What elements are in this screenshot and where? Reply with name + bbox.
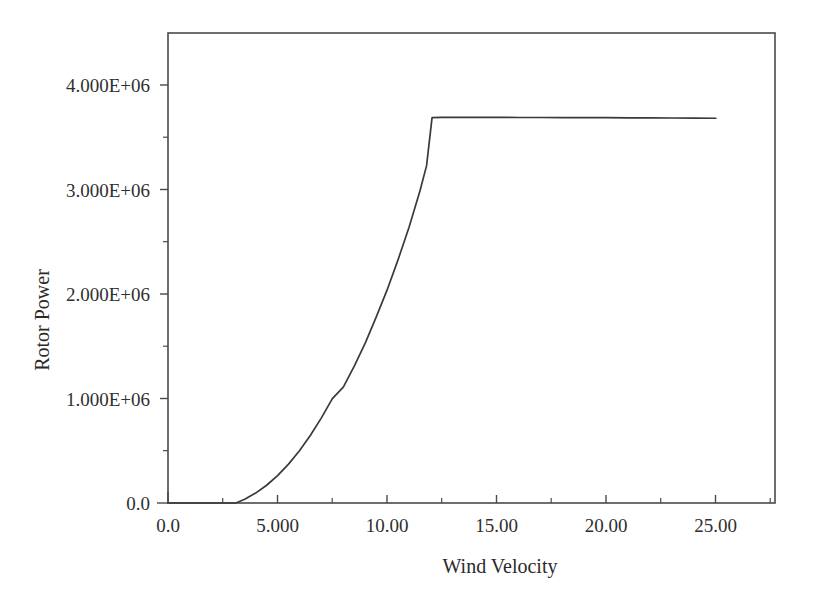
- chart-canvas: 0.0 5.000 10.00 15.00 20.00 25.00 0.0 1.…: [0, 0, 814, 597]
- y-tick-label-2: 2.000E+06: [66, 284, 150, 305]
- y-tick-label-4: 4.000E+06: [66, 75, 150, 96]
- x-tick-label-3: 15.00: [475, 515, 518, 536]
- y-axis-major-ticks: [157, 85, 168, 503]
- y-tick-label-3: 3.000E+06: [66, 180, 150, 201]
- x-tick-label-0: 0.0: [156, 515, 180, 536]
- x-tick-label-4: 20.00: [585, 515, 628, 536]
- x-tick-label-1: 5.000: [256, 515, 299, 536]
- y-axis-title: Rotor Power: [31, 269, 53, 371]
- plot-frame: [168, 33, 775, 503]
- x-axis-title: Wind Velocity: [443, 555, 558, 578]
- x-tick-label-5: 25.00: [694, 515, 737, 536]
- x-tick-label-2: 10.00: [366, 515, 409, 536]
- y-tick-label-0: 0.0: [126, 493, 150, 514]
- wind-turbine-power-curve-figure: 0.0 5.000 10.00 15.00 20.00 25.00 0.0 1.…: [0, 0, 814, 597]
- y-tick-label-1: 1.000E+06: [66, 389, 150, 410]
- rotor-power-curve: [168, 117, 716, 503]
